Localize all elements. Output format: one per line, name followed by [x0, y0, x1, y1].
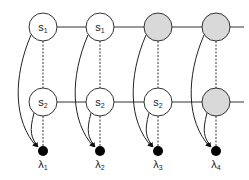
lambda-label: λ1	[38, 158, 48, 171]
state-node-s1	[144, 13, 172, 41]
lambda-dot	[95, 146, 105, 156]
lambda-dot	[38, 146, 48, 156]
lambda-label: λ2	[95, 158, 105, 171]
lambda-dot	[211, 146, 221, 156]
diagram-canvas: s1s2λ1s1s2λ2s2λ3λ4	[0, 0, 249, 180]
lambda-label: λ3	[153, 158, 163, 171]
lambda-label: λ4	[211, 158, 221, 171]
state-node-s1	[202, 13, 230, 41]
lambda-dot	[153, 146, 163, 156]
state-node-s2	[202, 88, 230, 116]
